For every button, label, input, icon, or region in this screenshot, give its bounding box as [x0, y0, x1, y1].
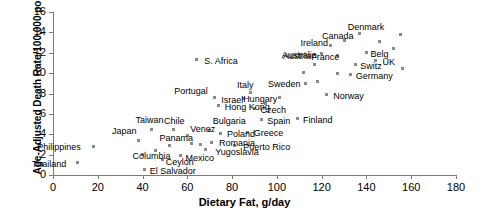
data-point-label: Venez: [190, 124, 215, 134]
data-point: [316, 80, 319, 83]
x-tick-mark: [366, 175, 367, 179]
y-tick-mark: [49, 175, 53, 176]
data-point-label: Taiwan: [136, 115, 164, 125]
data-point-label: Chile: [164, 116, 185, 126]
data-point: [349, 73, 352, 76]
data-point: [210, 141, 213, 144]
y-tick-mark: [49, 53, 53, 54]
x-tick-mark: [98, 175, 99, 179]
y-tick-mark: [49, 94, 53, 95]
data-point-label: Bulgaria: [213, 116, 246, 126]
y-tick-mark: [49, 32, 53, 33]
x-tick-label: 20: [78, 181, 118, 194]
x-tick-label: 180: [436, 181, 476, 194]
data-point-label: UK: [382, 57, 395, 67]
y-axis-title: Age-Adjusted Death Rate/100,000 pop.: [32, 5, 43, 175]
data-point: [172, 128, 175, 131]
x-axis-title: Dietary Fat, g/day: [0, 196, 489, 208]
y-tick-mark: [49, 155, 53, 156]
data-point: [378, 40, 381, 43]
x-tick-mark: [411, 175, 412, 179]
y-tick-mark: [49, 12, 53, 13]
data-point: [150, 128, 153, 131]
x-tick-label: 140: [346, 181, 386, 194]
data-point-label: Germany: [356, 71, 393, 81]
data-point-label: Greece: [254, 128, 284, 138]
data-point: [143, 168, 146, 171]
x-tick-mark: [456, 175, 457, 179]
plot-area: 020406080100120140160180 0246810121416 T…: [0, 0, 489, 223]
data-point-label: Norway: [333, 91, 364, 101]
data-point-label: Japan: [112, 126, 137, 136]
x-tick-mark: [322, 175, 323, 179]
data-point: [213, 96, 216, 99]
x-tick-label: 40: [123, 181, 163, 194]
scatter-chart: 020406080100120140160180 0246810121416 T…: [0, 0, 489, 223]
y-tick-mark: [49, 134, 53, 135]
data-point: [278, 96, 281, 99]
x-tick-label: 120: [302, 181, 342, 194]
data-point: [137, 139, 140, 142]
data-point-label: Israel: [221, 95, 243, 105]
data-point: [195, 58, 198, 61]
data-point: [354, 63, 357, 66]
x-tick-label: 0: [33, 181, 73, 194]
x-tick-label: 160: [391, 181, 431, 194]
data-point-label: Czech: [261, 105, 287, 115]
data-point: [296, 117, 299, 120]
data-point: [336, 72, 339, 75]
data-point: [392, 47, 395, 50]
data-point: [302, 71, 305, 74]
x-tick-mark: [143, 175, 144, 179]
data-point: [199, 143, 202, 146]
data-point-label: Finland: [303, 115, 333, 125]
data-point-label: Denmark: [348, 22, 385, 32]
data-point: [217, 104, 220, 107]
data-point: [304, 82, 307, 85]
y-tick-mark: [49, 73, 53, 74]
data-point-label: Sweden: [268, 79, 301, 89]
data-point: [168, 144, 171, 147]
data-point: [92, 145, 95, 148]
data-point-label: Panama: [159, 133, 193, 143]
y-tick-mark: [49, 114, 53, 115]
x-tick-label: 60: [167, 181, 207, 194]
data-point: [325, 93, 328, 96]
data-point-label: Hungary: [243, 94, 277, 104]
data-point-label: Switz: [360, 61, 382, 71]
x-tick-mark: [232, 175, 233, 179]
data-point: [365, 51, 368, 54]
x-tick-label: 100: [257, 181, 297, 194]
data-point-label: Spain: [267, 116, 290, 126]
data-point-label: Italy: [237, 80, 254, 90]
data-point: [329, 44, 332, 47]
x-tick-label: 80: [212, 181, 252, 194]
x-tick-mark: [53, 175, 54, 179]
x-tick-mark: [277, 175, 278, 179]
data-point-label: Philippines: [37, 142, 81, 152]
data-point: [260, 118, 263, 121]
data-point: [399, 33, 402, 36]
data-point: [204, 148, 207, 151]
data-point-label: Mexico: [186, 153, 215, 163]
x-axis-line: [53, 175, 456, 176]
data-point-label: Puerto Rico: [243, 142, 290, 152]
data-point-label: Portugal: [174, 86, 208, 96]
data-point-label: France: [311, 52, 339, 62]
data-point: [76, 161, 79, 164]
data-point: [313, 63, 316, 66]
data-point-label: Poland: [227, 129, 255, 139]
data-point-label: El Salvador: [150, 166, 196, 176]
data-point: [219, 132, 222, 135]
data-point-label: S. Africa: [204, 56, 238, 66]
data-point: [401, 67, 404, 70]
